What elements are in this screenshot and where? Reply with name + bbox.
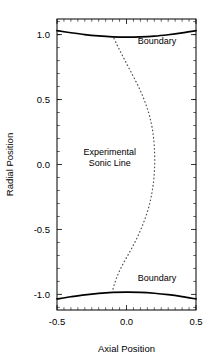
boundary-label-top-icon-text: Boundary (138, 36, 177, 46)
y-tick-label: 0.0 (37, 159, 50, 170)
x-axis-title: Axial Position (98, 343, 155, 354)
y-tick-label: -0.5 (34, 224, 50, 235)
x-tick-label: 0.5 (189, 316, 202, 327)
boundary-label-bottom-text: Boundary (138, 273, 177, 283)
sonic-line-label-line1-text: Experimental (84, 147, 137, 157)
lower-boundary-curve (57, 292, 196, 299)
y-tick-label: 0.5 (37, 94, 50, 105)
y-tick-label: -1.0 (34, 289, 50, 300)
sonic-line-chart: -0.50.00.5 1.00.50.0-0.5-1.0 Axial Posit… (0, 0, 211, 364)
x-tick-label: -0.5 (49, 316, 65, 327)
x-axis-tick-labels: -0.50.00.5 (49, 316, 203, 327)
y-axis-title: Radial Position (4, 133, 15, 196)
chart-figure: -0.50.00.5 1.00.50.0-0.5-1.0 Axial Posit… (0, 0, 211, 364)
y-tick-label: 1.0 (37, 29, 50, 40)
sonic-line-label-line2-text: Sonic Line (89, 158, 131, 168)
y-axis-tick-labels: 1.00.50.0-0.5-1.0 (34, 29, 50, 300)
x-tick-label: 0.0 (120, 316, 133, 327)
